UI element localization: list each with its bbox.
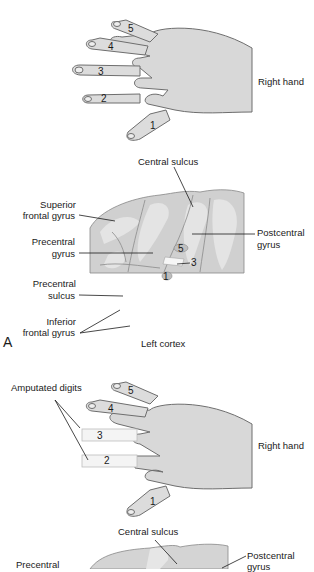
digit-3-b: 3 xyxy=(97,430,103,441)
postcentral-gyrus-label-2: gyrus xyxy=(257,239,280,250)
digit-3-a: 3 xyxy=(98,66,104,77)
digit-1-b: 1 xyxy=(150,496,156,507)
postcentral-gyrus-label-b-2: gyrus xyxy=(247,561,270,572)
digit-4-b: 4 xyxy=(108,403,114,414)
cortex-a: 5 3 1 xyxy=(90,190,244,282)
postcentral-gyrus-label-b-1: Postcentral xyxy=(247,550,295,561)
precentral-gyrus-label-2: gyrus xyxy=(52,248,75,259)
central-sulcus-label-b: Central sulcus xyxy=(118,526,178,537)
hand-a xyxy=(73,20,253,140)
panel-letter-a: A xyxy=(3,334,12,350)
postcentral-gyrus-label-1: Postcentral xyxy=(257,227,305,238)
cortex-map-3-a: 3 xyxy=(191,257,197,268)
precentral-sulcus-label-2: sulcus xyxy=(48,290,75,301)
digit-4-a: 4 xyxy=(108,41,114,52)
right-hand-label-a: Right hand xyxy=(258,76,304,87)
digit-5-b: 5 xyxy=(128,385,134,396)
right-hand-label-b: Right hand xyxy=(258,440,304,451)
cortex-map-1-a: 1 xyxy=(163,271,169,282)
inferior-frontal-gyrus-label-2: frontal gyrus xyxy=(23,327,75,338)
precentral-label-b: Precentral xyxy=(16,559,59,570)
superior-frontal-gyrus-label-1: Superior xyxy=(40,199,76,210)
digit-2-a: 2 xyxy=(101,93,107,104)
amputated-digits-label: Amputated digits xyxy=(11,382,82,393)
digit-2-b: 2 xyxy=(104,455,110,466)
cortex-map-5-a: 5 xyxy=(178,243,184,254)
digit-1-a: 1 xyxy=(150,120,156,131)
digit-5-a: 5 xyxy=(128,23,134,34)
precentral-gyrus-label-1: Precentral xyxy=(32,236,75,247)
left-cortex-caption: Left cortex xyxy=(141,338,185,349)
precentral-sulcus-label-1: Precentral xyxy=(33,278,76,289)
inferior-frontal-gyrus-label-1: Inferior xyxy=(46,316,76,327)
cortex-b xyxy=(90,544,228,569)
central-sulcus-label-a: Central sulcus xyxy=(138,156,198,167)
superior-frontal-gyrus-label-2: frontal gyrus xyxy=(23,210,75,221)
